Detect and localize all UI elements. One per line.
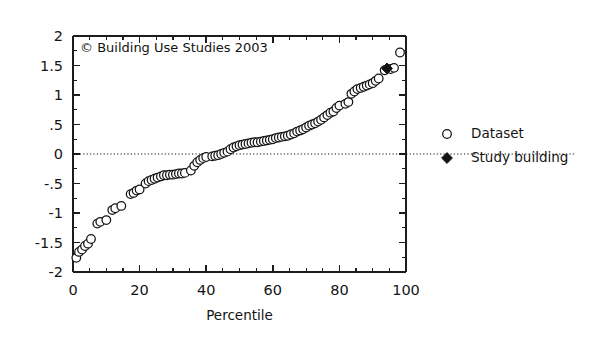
x-tick-label: 100 [392,282,420,298]
x-tick-label: 20 [130,282,148,298]
x-tick-label: 40 [197,282,215,298]
y-tick-label: 1.5 [40,58,63,74]
data-point-dataset [117,202,126,211]
legend-marker-dataset [443,130,452,139]
axis-tick-labels: 21.51.50-.5-1-1.5-2020406080100 [35,28,420,298]
data-points-group [72,48,404,262]
chart-legend: DatasetStudy building [442,125,569,165]
chart-figure: 21.51.50-.5-1-1.5-2020406080100 © Buildi… [0,0,606,342]
copyright-annotation: © Building Use Studies 2003 [80,40,268,55]
y-tick-label: .5 [49,117,63,133]
data-point-dataset [374,74,383,83]
percentile-scatter-plot: 21.51.50-.5-1-1.5-2020406080100 © Buildi… [0,0,606,342]
x-tick-label: 60 [264,282,282,298]
legend-label: Study building [471,149,568,165]
data-point-dataset [87,235,96,244]
y-tick-label: 2 [54,28,63,44]
y-tick-label: -2 [49,264,63,280]
data-point-dataset [344,98,353,107]
x-tick-label: 80 [330,282,348,298]
data-point-dataset [102,216,111,225]
y-tick-label: -.5 [44,176,63,192]
y-tick-label: -1.5 [35,235,63,251]
x-tick-label: 0 [68,282,77,298]
legend-label: Dataset [471,125,524,141]
y-tick-label: -1 [49,205,63,221]
y-tick-label: 0 [54,146,63,162]
y-tick-label: 1 [54,87,63,103]
data-point-dataset [396,48,405,57]
x-axis-title: Percentile [206,307,273,323]
